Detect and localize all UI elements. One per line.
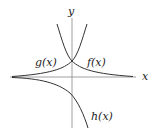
y-axis-label: y	[67, 5, 75, 18]
curve-h	[12, 78, 88, 129]
h-label: h(x)	[91, 110, 113, 123]
f-label: f(x)	[86, 56, 106, 69]
g-label: g(x)	[35, 56, 57, 69]
x-axis-label: x	[142, 70, 149, 83]
function-graph: y x g(x) f(x) h(x)	[0, 0, 156, 137]
